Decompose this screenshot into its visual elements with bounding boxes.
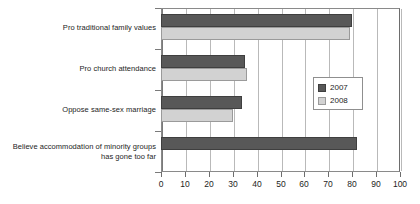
x-axis-tick: [209, 172, 210, 177]
bar-2008: [161, 68, 247, 81]
x-axis-tick: [304, 172, 305, 177]
category-tick: [155, 8, 161, 9]
legend-swatch-icon: [318, 97, 326, 105]
x-axis-tick-label: 20: [197, 179, 221, 189]
x-axis-tick: [328, 172, 329, 177]
gridline: [401, 9, 402, 171]
x-axis-tick: [352, 172, 353, 177]
x-axis-tick: [281, 172, 282, 177]
bar-2007: [161, 96, 242, 109]
x-axis-tick-label: 90: [364, 179, 388, 189]
x-axis-tick: [376, 172, 377, 177]
x-axis-tick-label: 50: [269, 179, 293, 189]
category-label: Oppose same-sex marriage: [62, 105, 156, 115]
legend-label: 2008: [330, 96, 348, 105]
x-axis-tick-label: 0: [149, 179, 173, 189]
category-label: Pro church attendance: [79, 64, 156, 74]
category-tick: [155, 49, 161, 50]
x-axis-tick: [400, 172, 401, 177]
bar-2008: [161, 27, 350, 40]
legend-item[interactable]: 2007: [318, 81, 362, 94]
x-axis-tick: [161, 172, 162, 177]
x-axis-tick-label: 30: [221, 179, 245, 189]
x-axis-tick: [185, 172, 186, 177]
x-axis-tick-label: 40: [245, 179, 269, 189]
legend-label: 2007: [330, 83, 348, 92]
category-label: Believe accommodation of minority groups…: [13, 142, 156, 161]
x-axis-tick-label: 100: [388, 179, 412, 189]
x-axis-tick-label: 10: [173, 179, 197, 189]
bar-chart: Pro traditional family valuesPro church …: [0, 0, 420, 204]
x-axis-tick-label: 70: [316, 179, 340, 189]
bars-layer: [161, 8, 400, 172]
x-axis-tick-label: 80: [340, 179, 364, 189]
legend-item[interactable]: 2008: [318, 94, 362, 107]
bar-2007: [161, 137, 357, 150]
x-axis-tick: [257, 172, 258, 177]
bar-2007: [161, 14, 352, 27]
category-label: Pro traditional family values: [63, 23, 156, 33]
x-axis-tick-label: 60: [292, 179, 316, 189]
legend: 2007 2008: [313, 77, 363, 110]
bar-2008: [161, 109, 233, 122]
category-tick: [155, 90, 161, 91]
legend-swatch-icon: [318, 84, 326, 92]
bar-2007: [161, 55, 245, 68]
category-tick: [155, 131, 161, 132]
x-axis-tick: [233, 172, 234, 177]
